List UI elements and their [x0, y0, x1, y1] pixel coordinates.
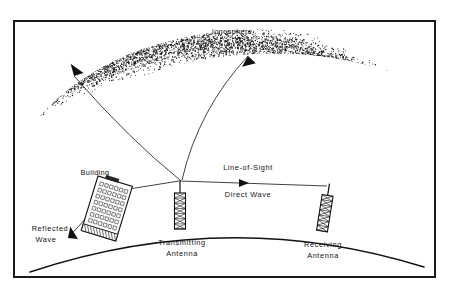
- building-window: [117, 194, 121, 198]
- building-window: [101, 195, 105, 199]
- building-window: [114, 220, 118, 224]
- building-window: [90, 212, 94, 216]
- building-window: [108, 205, 112, 209]
- building-window: [102, 189, 106, 193]
- building-label: Building: [80, 168, 109, 177]
- building-window: [108, 224, 112, 228]
- reflected-wave-label-line2: Wave: [35, 235, 56, 244]
- building-window: [93, 220, 97, 224]
- building-window: [116, 214, 120, 218]
- building-window: [113, 226, 117, 230]
- propagation-diagram: Ionosphere Building Line-of-Sight Direct…: [0, 0, 450, 301]
- building-window: [113, 206, 117, 210]
- building-window: [112, 192, 116, 196]
- transmitting-antenna-label-line2: Antenna: [166, 249, 198, 258]
- building-window: [96, 194, 100, 198]
- building-window: [104, 183, 108, 187]
- building-window: [100, 215, 104, 219]
- receiving-antenna-label-line2: Antenna: [307, 251, 339, 260]
- transmitting-antenna-label-line1: Transmitting: [158, 238, 206, 247]
- receiving-antenna-label-line1: Receiving: [304, 240, 342, 249]
- direct-wave-label: Direct Wave: [225, 190, 272, 199]
- reflected-wave-label-line1: Reflected: [32, 224, 69, 233]
- building-window: [107, 211, 111, 215]
- building-window: [102, 209, 106, 213]
- building-window: [92, 206, 96, 210]
- building-window: [118, 208, 122, 212]
- building-window: [110, 198, 114, 202]
- building-window: [98, 221, 102, 225]
- building-window: [110, 218, 114, 222]
- diagram-page: Ionosphere Building Line-of-Sight Direct…: [0, 0, 450, 301]
- building-window: [94, 200, 98, 204]
- building-window: [107, 191, 111, 195]
- building-window: [99, 182, 103, 186]
- building-window: [105, 217, 109, 221]
- building-window: [104, 203, 108, 207]
- building-window: [105, 197, 109, 201]
- building-window: [119, 188, 123, 192]
- building-window: [124, 189, 128, 193]
- building-window: [111, 212, 115, 216]
- building-window: [88, 218, 92, 222]
- building-window: [98, 188, 102, 192]
- building-window: [120, 201, 124, 205]
- building-window: [103, 223, 107, 227]
- line-of-sight-label: Line-of-Sight: [223, 163, 273, 172]
- building-window: [109, 185, 113, 189]
- building-window: [115, 200, 119, 204]
- building-window: [114, 186, 118, 190]
- building-window: [97, 208, 101, 212]
- building-window: [95, 214, 99, 218]
- building-window: [122, 195, 126, 199]
- building-window: [99, 202, 103, 206]
- ionosphere-label: Ionosphere: [212, 27, 252, 36]
